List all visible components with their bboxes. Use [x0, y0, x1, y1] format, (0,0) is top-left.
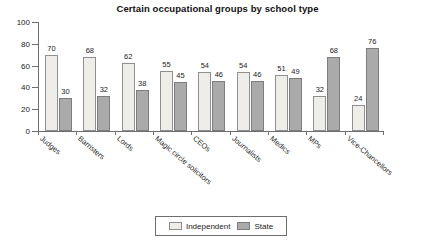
bar-group: 6238: [122, 22, 149, 131]
bar-value-label: 51: [277, 64, 285, 73]
bar-value-label: 32: [316, 85, 324, 94]
y-axis-tick-label: 100: [17, 18, 30, 27]
x-axis-label: Barristers: [77, 134, 107, 162]
bar-value-label: 62: [124, 52, 132, 61]
legend-swatch-state: [237, 222, 250, 230]
bar-value-label: 54: [239, 61, 247, 70]
bar-value-label: 46: [253, 70, 261, 79]
bar-state: [59, 98, 72, 131]
bar-value-label: 45: [176, 71, 184, 80]
bar-independent: [237, 72, 250, 131]
bar-independent: [198, 72, 211, 131]
bar-state: [251, 81, 264, 131]
x-axis-line: [38, 131, 384, 132]
bar-independent: [122, 63, 135, 131]
bar-value-label: 24: [354, 94, 362, 103]
bar-state: [327, 57, 340, 131]
bar-state: [136, 90, 149, 131]
bar-group: 5545: [160, 22, 187, 131]
bar-group: 5446: [198, 22, 225, 131]
bar-value-label: 70: [47, 44, 55, 53]
bar-state: [366, 48, 379, 131]
bar-value-label: 46: [215, 70, 223, 79]
bar-state: [289, 78, 302, 131]
x-axis-label: Vice-Chancellors: [345, 134, 394, 177]
bar-value-label: 38: [138, 79, 146, 88]
bar-group: 3268: [313, 22, 340, 131]
y-axis-tick-label: 60: [21, 61, 30, 70]
bar-independent: [83, 57, 96, 131]
bar-group: 2476: [352, 22, 379, 131]
bar-independent: [45, 55, 58, 131]
x-axis-label: Medics: [268, 134, 292, 156]
bar-value-label: 55: [162, 60, 170, 69]
bar-independent: [352, 105, 365, 131]
x-axis-labels: JudgesBarristersLordsMagic circle solici…: [0, 134, 435, 209]
bar-state: [97, 96, 110, 131]
bar-value-label: 49: [291, 67, 299, 76]
bar-group: 6832: [83, 22, 110, 131]
bar-groups: 703068326238554554465446514932682476: [38, 22, 383, 131]
bar-value-label: 68: [330, 46, 338, 55]
bar-group: 7030: [45, 22, 72, 131]
bar-value-label: 54: [201, 61, 209, 70]
bar-value-label: 68: [86, 46, 94, 55]
bar-value-label: 30: [61, 87, 69, 96]
legend-label-independent: Independent: [186, 222, 231, 231]
legend-item-state: State: [237, 222, 273, 231]
y-axis-tick-label: 20: [21, 105, 30, 114]
x-axis-label: CEOs: [192, 134, 213, 154]
bar-state: [212, 81, 225, 131]
chart-title: Certain occupational groups by school ty…: [0, 3, 435, 14]
legend-label-state: State: [254, 222, 273, 231]
bar-group: 5446: [237, 22, 264, 131]
bar-group: 5149: [275, 22, 302, 131]
legend-item-independent: Independent: [169, 222, 231, 231]
x-axis-label: Judges: [38, 134, 62, 156]
y-axis-tick-label: 40: [21, 83, 30, 92]
x-axis-label: Lords: [115, 134, 135, 153]
bar-state: [174, 82, 187, 131]
x-axis-label: MPs: [307, 134, 324, 151]
bar-independent: [313, 96, 326, 131]
y-axis-tick-label: 80: [21, 39, 30, 48]
bar-value-label: 76: [368, 37, 376, 46]
bar-value-label: 32: [100, 85, 108, 94]
x-axis-label: Journalists: [230, 134, 263, 164]
plot-area: 020406080100 703068326238554554465446514…: [38, 22, 383, 131]
legend-swatch-independent: [169, 222, 182, 230]
bar-chart: Certain occupational groups by school ty…: [0, 0, 435, 246]
bar-independent: [275, 75, 288, 131]
legend: Independent State: [155, 216, 287, 236]
bar-independent: [160, 71, 173, 131]
